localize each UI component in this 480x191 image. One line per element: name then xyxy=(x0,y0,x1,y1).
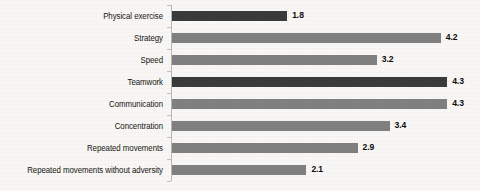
axis-tick xyxy=(167,71,171,72)
category-label: Repeated movements xyxy=(10,143,163,153)
axis-tick xyxy=(167,93,171,94)
bar-value-label: 1.8 xyxy=(292,10,304,21)
bar xyxy=(172,77,447,87)
bar-row: Repeated movements without adversity2.1 xyxy=(0,159,480,181)
bar xyxy=(172,55,377,65)
category-label: Speed xyxy=(10,55,163,65)
bar xyxy=(172,99,447,109)
bar xyxy=(172,165,306,175)
bar xyxy=(172,11,287,21)
category-label: Repeated movements without adversity xyxy=(10,165,163,175)
category-label: Physical exercise xyxy=(10,11,163,21)
axis-tick xyxy=(167,181,171,182)
axis-tick xyxy=(167,27,171,28)
axis-tick xyxy=(167,5,171,6)
category-label: Communication xyxy=(10,99,163,109)
bar-value-label: 3.2 xyxy=(382,54,394,65)
bar-value-label: 2.1 xyxy=(311,164,323,175)
bar-row: Concentration3.4 xyxy=(0,115,480,137)
bar-row: Physical exercise1.8 xyxy=(0,5,480,27)
bar-row: Strategy4.2 xyxy=(0,27,480,49)
axis-tick xyxy=(167,137,171,138)
bar-value-label: 3.4 xyxy=(395,120,407,131)
bar-row: Repeated movements2.9 xyxy=(0,137,480,159)
bar xyxy=(172,143,358,153)
bar-value-label: 4.2 xyxy=(446,32,458,43)
bar-value-label: 4.3 xyxy=(452,76,464,87)
category-label: Strategy xyxy=(10,33,163,43)
axis-tick xyxy=(167,159,171,160)
axis-tick xyxy=(167,49,171,50)
category-label: Teamwork xyxy=(10,77,163,87)
bar xyxy=(172,33,441,43)
bar-row: Communication4.3 xyxy=(0,93,480,115)
bar-value-label: 4.3 xyxy=(452,98,464,109)
bar-row: Teamwork4.3 xyxy=(0,71,480,93)
bar-value-label: 2.9 xyxy=(363,142,375,153)
category-label: Concentration xyxy=(10,121,163,131)
bar xyxy=(172,121,390,131)
bar-row: Speed3.2 xyxy=(0,49,480,71)
axis-tick xyxy=(167,115,171,116)
bar-chart: Physical exercise1.8Strategy4.2Speed3.2T… xyxy=(0,0,480,191)
